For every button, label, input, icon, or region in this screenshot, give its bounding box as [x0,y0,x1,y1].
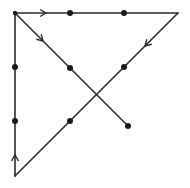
grid-dot [125,123,131,129]
nine-dot-diagram [0,0,190,188]
grid-dot [67,118,73,124]
grid-dot [121,64,127,70]
grid-dot [13,11,17,15]
grid-dot [12,118,18,124]
grid-dot [12,64,18,70]
lines [15,13,178,176]
grid-dot [121,10,127,16]
arrows [12,10,152,162]
grid-dot [67,10,73,16]
grid-dot [67,65,73,71]
